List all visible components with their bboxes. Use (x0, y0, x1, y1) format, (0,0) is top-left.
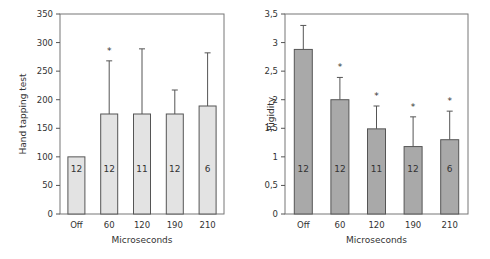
sample-size-label: 12 (298, 164, 309, 174)
significance-star: * (447, 96, 452, 106)
y-tick-label: 3 (273, 38, 278, 48)
x-tick-label: 210 (199, 220, 215, 230)
y-axis-title: Rigidity (266, 96, 276, 131)
y-tick-label: 0 (48, 209, 53, 219)
x-tick-label: 190 (405, 220, 421, 230)
y-tick-label: 0,5 (264, 180, 278, 190)
x-tick-label: 60 (104, 220, 115, 230)
bar-group: 12*190 (404, 102, 422, 230)
bar-group: 12Off (294, 25, 312, 230)
x-tick-label: 60 (334, 220, 345, 230)
significance-star: * (374, 91, 379, 101)
sample-size-label: 12 (169, 164, 180, 174)
y-tick-label: 100 (37, 152, 53, 162)
sample-size-label: 12 (71, 164, 82, 174)
figure: 050100150200250300350Hand tapping test12… (0, 0, 490, 259)
y-tick-label: 150 (37, 123, 53, 133)
x-tick-label: 190 (167, 220, 183, 230)
bar-group: 11120 (134, 49, 151, 230)
bar (199, 106, 216, 214)
y-tick-label: 250 (37, 66, 53, 76)
sample-size-label: 12 (103, 164, 114, 174)
rigidity-chart: 00,511,522,533,5Rigidity12Off12*6011*120… (264, 9, 468, 245)
y-tick-label: 200 (37, 95, 53, 105)
bar (404, 147, 422, 214)
y-tick-label: 300 (37, 38, 53, 48)
bar (331, 100, 349, 214)
y-tick-label: 350 (37, 9, 53, 19)
bar-group: 12*60 (331, 62, 349, 230)
hand-tapping-chart: 050100150200250300350Hand tapping test12… (18, 9, 224, 245)
bar-group: 6*210 (441, 96, 459, 230)
x-axis-title: Microseconds (346, 235, 407, 245)
x-tick-label: 210 (442, 220, 458, 230)
x-tick-label: Off (297, 220, 311, 230)
x-tick-label: 120 (368, 220, 384, 230)
significance-star: * (338, 62, 343, 72)
y-tick-label: 2,5 (264, 66, 278, 76)
sample-size-label: 12 (334, 164, 345, 174)
sample-size-label: 11 (371, 164, 382, 174)
bar-group: 12190 (166, 90, 183, 230)
bar (441, 140, 459, 214)
bar-group: 11*120 (368, 91, 386, 230)
y-tick-label: 0 (273, 209, 278, 219)
sample-size-label: 6 (205, 164, 211, 174)
x-axis-title: Microseconds (111, 235, 172, 245)
x-tick-label: 120 (134, 220, 150, 230)
y-tick-label: 1 (273, 152, 278, 162)
y-tick-label: 3,5 (264, 9, 278, 19)
sample-size-label: 12 (407, 164, 418, 174)
y-tick-label: 50 (42, 180, 53, 190)
bar-group: 12*60 (101, 46, 118, 230)
sample-size-label: 6 (447, 164, 453, 174)
bar-group: 12Off (68, 157, 85, 230)
bar-group: 6210 (199, 53, 216, 230)
bar (294, 49, 312, 214)
significance-star: * (107, 46, 112, 56)
y-axis-title: Hand tapping test (18, 73, 28, 155)
sample-size-label: 11 (136, 164, 147, 174)
x-tick-label: Off (70, 220, 84, 230)
significance-star: * (411, 102, 416, 112)
